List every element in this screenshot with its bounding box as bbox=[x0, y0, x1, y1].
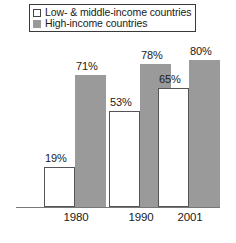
chart-legend: Low- & middle-income countries High-inco… bbox=[29, 4, 196, 32]
bar-value-1980-low-middle-income: 19% bbox=[45, 152, 67, 164]
bar-2001-low-middle-income bbox=[158, 88, 189, 207]
bar-chart: Low- & middle-income countries High-inco… bbox=[0, 0, 236, 243]
bar-2001-high-income bbox=[189, 60, 220, 207]
bar-value-1990-high-income: 78% bbox=[141, 49, 163, 61]
legend-swatch-icon-high-income bbox=[33, 20, 41, 28]
plot-area: 19% 71% 53% 78% 65% 80% 1980 1990 2001 bbox=[0, 0, 236, 243]
bar-1990-low-middle-income bbox=[109, 111, 140, 207]
bar-1980-high-income bbox=[75, 75, 106, 207]
x-axis-line bbox=[16, 207, 220, 208]
x-axis-tick-1980: 1980 bbox=[45, 211, 107, 223]
bar-1980-low-middle-income bbox=[44, 167, 75, 207]
bar-value-1980-high-income: 71% bbox=[76, 60, 98, 72]
legend-label-high-income: High-income countries bbox=[45, 18, 147, 29]
legend-item-high-income: High-income countries bbox=[33, 18, 191, 29]
bar-value-1990-low-middle-income: 53% bbox=[110, 96, 132, 108]
legend-swatch-icon-low-middle-income bbox=[33, 9, 41, 17]
bar-value-2001-high-income: 80% bbox=[190, 45, 212, 57]
bar-value-2001-low-middle-income: 65% bbox=[159, 73, 181, 85]
x-axis-tick-2001: 2001 bbox=[159, 211, 221, 223]
